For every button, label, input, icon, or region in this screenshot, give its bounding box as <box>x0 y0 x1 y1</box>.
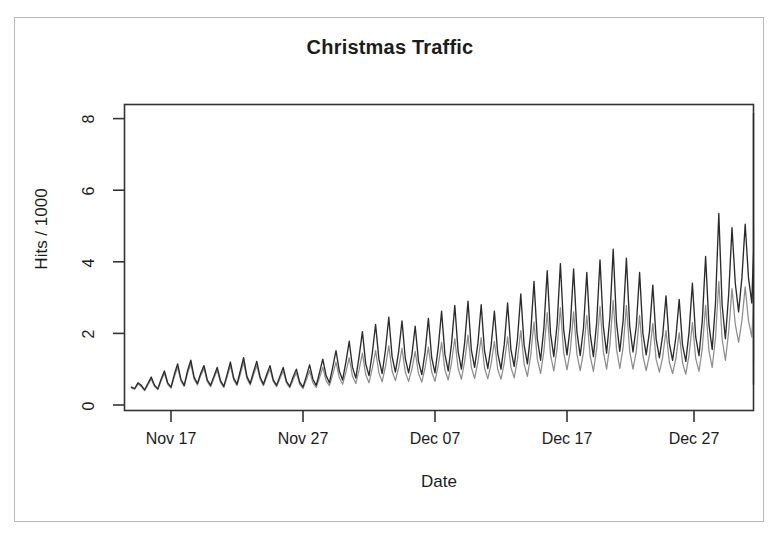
plot-area <box>0 0 780 554</box>
plot-frame <box>125 105 754 411</box>
series-line-unique-visitors <box>131 228 753 391</box>
chart-figure: Christmas Traffic Hits / 1000 Date 0 2 4… <box>0 0 780 554</box>
screenshot-page: Christmas Traffic Hits / 1000 Date 0 2 4… <box>0 0 780 554</box>
